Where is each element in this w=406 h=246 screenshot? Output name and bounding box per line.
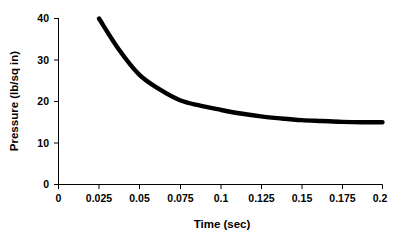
x-tick-label-0175: 0.175 xyxy=(329,192,355,204)
y-tick-label-40: 40 xyxy=(37,12,49,24)
chart-figure: 40 30 20 10 0 0 0.025 0.05 0.075 0.1 0.1… xyxy=(0,0,406,246)
y-tick-label-10: 10 xyxy=(37,137,49,149)
y-axis-title: Pressure (lb/sq in) xyxy=(8,51,20,152)
x-axis-title: Time (sec) xyxy=(194,218,251,230)
x-tick-label-01: 0.1 xyxy=(214,192,229,204)
x-tick-label-0025: 0.025 xyxy=(86,192,112,204)
x-tick-label-0: 0 xyxy=(56,192,62,204)
x-tick-label-005: 0.05 xyxy=(129,192,150,204)
x-tick-label-02: 0.2 xyxy=(373,192,388,204)
x-tick-label-0075: 0.075 xyxy=(167,192,193,204)
y-tick-label-0: 0 xyxy=(43,178,49,190)
y-tick-label-30: 30 xyxy=(37,54,49,66)
x-tick-label-0125: 0.125 xyxy=(248,192,274,204)
x-tick-label-015: 0.15 xyxy=(292,192,313,204)
y-tick-label-20: 20 xyxy=(37,95,49,107)
pressure-time-line-chart: 40 30 20 10 0 0 0.025 0.05 0.075 0.1 0.1… xyxy=(0,0,406,246)
